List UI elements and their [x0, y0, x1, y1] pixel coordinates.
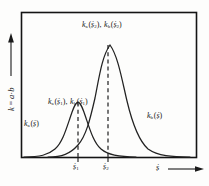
figure-container: k = a·b ka (ṩ2), kb (ṩ2) ka (ṩ1), kb (ṩ1…: [0, 0, 209, 186]
y-axis-arrow: [8, 33, 14, 76]
annotation-peak-middle: ka (ṩ1), kb (ṩ1): [48, 98, 88, 107]
y-axis-label: k = a·b: [7, 75, 16, 123]
curve-k-a: [24, 102, 136, 157]
x-tick-label-v2: ṩ2: [103, 163, 109, 172]
annotation-peak-top: ka (ṩ2), kb (ṩ2): [82, 21, 122, 30]
annotation-curve-k-a: ka (ṩ): [24, 120, 39, 129]
x-axis-label: ṩ: [156, 163, 159, 172]
x-axis-arrow: [168, 166, 204, 172]
annotation-curve-k-b: kb (ṩ): [147, 112, 162, 121]
x-tick-label-v1: ṩ1: [73, 163, 79, 172]
plot-frame: [22, 13, 197, 158]
